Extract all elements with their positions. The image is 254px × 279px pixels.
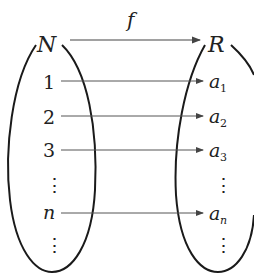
domain-vdots-2: ⋮ xyxy=(45,234,64,256)
codomain-vdots-2: ⋮ xyxy=(214,234,233,256)
domain-element-n: n xyxy=(43,201,55,223)
codomain-element-a1: a 1 xyxy=(209,70,227,95)
svg-text:a: a xyxy=(209,139,220,161)
codomain-element-a2: a 2 xyxy=(209,105,227,130)
domain-set-label: N xyxy=(36,32,57,57)
domain-element-2: 2 xyxy=(43,106,55,128)
codomain-set-label: R xyxy=(207,32,225,57)
domain-element-1: 1 xyxy=(43,71,55,93)
svg-text:1: 1 xyxy=(220,82,227,95)
svg-text:3: 3 xyxy=(220,151,227,164)
svg-text:n: n xyxy=(220,214,227,227)
domain-element-3: 3 xyxy=(43,139,55,161)
domain-vdots-1: ⋮ xyxy=(45,174,64,196)
codomain-set-oval-top-right xyxy=(231,45,254,75)
function-label: f xyxy=(125,8,138,32)
codomain-vdots-1: ⋮ xyxy=(214,174,233,196)
mapping-diagram: f N R 1 2 3 ⋮ n ⋮ a 1 a 2 a 3 ⋮ a n ⋮ xyxy=(0,0,254,279)
codomain-element-an: a n xyxy=(209,202,227,227)
svg-text:a: a xyxy=(209,202,220,224)
codomain-element-a3: a 3 xyxy=(209,139,227,164)
svg-text:a: a xyxy=(209,70,220,92)
svg-text:2: 2 xyxy=(220,117,227,130)
svg-text:a: a xyxy=(209,105,220,127)
